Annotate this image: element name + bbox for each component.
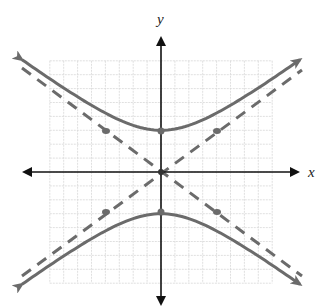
- hyperbola-graph: y x: [0, 0, 323, 306]
- y-axis-label: y: [155, 11, 164, 27]
- x-axis-label: x: [307, 164, 315, 180]
